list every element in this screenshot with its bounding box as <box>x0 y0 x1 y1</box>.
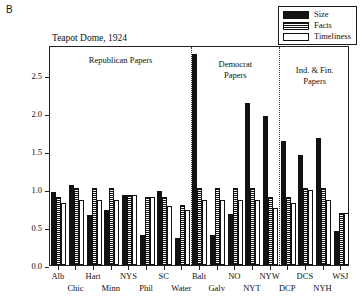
legend-item-facts: Facts <box>283 21 351 30</box>
x-axis-tick <box>164 266 165 270</box>
bar-timeliness-no <box>238 200 243 265</box>
x-axis-label-nys: NYS <box>120 271 137 281</box>
group-annotation-line: Ind. & Fin. <box>279 65 350 76</box>
bar-timeliness-hart <box>97 200 102 265</box>
group-annotation-democrat-papers: DemocratPapers <box>191 59 279 81</box>
bar-group <box>174 47 192 265</box>
x-axis-tick <box>340 266 341 270</box>
bar-timeliness-dcs <box>308 190 313 265</box>
x-axis-tick <box>199 266 200 270</box>
y-axis-tick-label: 0.0 <box>31 261 42 271</box>
bar-group <box>138 47 156 265</box>
y-axis: 0.00.51.01.52.02.5 <box>0 46 49 266</box>
legend-item-size: Size <box>283 10 351 19</box>
legend-swatch-size <box>283 11 309 19</box>
bar-timeliness-nys <box>132 195 137 265</box>
x-axis-tick <box>93 266 94 270</box>
bar-timeliness-sc <box>167 206 172 265</box>
x-axis-label-alb: Alb <box>51 271 64 281</box>
x-axis-label-nyw: NYW <box>259 271 279 281</box>
x-axis-tick <box>305 266 306 270</box>
x-axis-label-wsj: WSJ <box>332 271 348 281</box>
y-axis-tick-label: 2.5 <box>31 71 42 81</box>
bar-group <box>121 47 139 265</box>
bar-timeliness-water <box>185 210 190 265</box>
y-axis-tick: 2.0 <box>31 109 49 119</box>
legend-swatch-facts <box>283 22 309 30</box>
group-annotation-line: Republican Papers <box>50 55 191 66</box>
x-axis-tick <box>217 266 218 270</box>
bar-timeliness-chic <box>79 200 84 265</box>
legend-item-timeliness: Timeliness <box>283 32 351 41</box>
x-axis-label-nyt: NYT <box>243 283 260 293</box>
x-axis-tick <box>111 266 112 270</box>
y-axis-tick: 0.5 <box>31 223 49 233</box>
group-annotation-line: Papers <box>279 76 350 87</box>
y-axis-tick: 1.5 <box>31 147 49 157</box>
y-axis-tick-label: 2.0 <box>31 109 42 119</box>
bars-container: Republican PapersDemocratPapersInd. & Fi… <box>50 47 348 265</box>
bar-group <box>156 47 174 265</box>
y-axis-tick-label: 0.5 <box>31 223 42 233</box>
y-axis-tick-label: 1.5 <box>31 147 42 157</box>
x-axis-label-dcp: DCP <box>279 283 296 293</box>
x-axis-label-nyh: NYH <box>313 283 331 293</box>
group-annotation-independent-financial-papers: Ind. & Fin.Papers <box>279 65 350 87</box>
x-axis-label-water: Water <box>171 283 191 293</box>
legend-label-facts: Facts <box>314 21 332 30</box>
bar-group <box>50 47 68 265</box>
bar-timeliness-balt <box>202 200 207 265</box>
x-axis-label-balt: Balt <box>192 271 206 281</box>
legend-swatch-timeliness <box>283 33 309 41</box>
y-axis-tick: 2.5 <box>31 71 49 81</box>
legend-label-timeliness: Timeliness <box>314 32 351 41</box>
bar-timeliness-nyt <box>255 200 260 265</box>
x-axis-label-chic: Chic <box>67 283 83 293</box>
bar-timeliness-nyw <box>273 208 278 265</box>
y-axis-tick: 1.0 <box>31 185 49 195</box>
bar-timeliness-dcp <box>291 203 296 265</box>
x-axis-label-galv: Galv <box>208 283 225 293</box>
bar-timeliness-minn <box>114 200 119 265</box>
x-axis-tick <box>58 266 59 270</box>
x-axis-label-sc: SC <box>159 271 169 281</box>
chart-legend: Size Facts Timeliness <box>278 6 357 45</box>
x-axis-tick <box>146 266 147 270</box>
bar-timeliness-wsj <box>344 213 349 265</box>
x-axis: AlbChicHartMinnNYSPhilSCWaterBaltGalvNON… <box>49 266 349 305</box>
x-axis-label-dcs: DCS <box>297 271 314 281</box>
x-axis-tick <box>270 266 271 270</box>
x-axis-tick <box>128 266 129 270</box>
bar-timeliness-alb <box>61 203 66 265</box>
chart-title: Teapot Dome, 1924 <box>52 33 127 43</box>
bar-group <box>103 47 121 265</box>
bar-timeliness-nyh <box>326 200 331 265</box>
bar-group <box>68 47 86 265</box>
x-axis-label-phil: Phil <box>139 283 153 293</box>
group-annotation-line: Papers <box>191 70 279 81</box>
bar-timeliness-galv <box>220 200 225 265</box>
y-axis-tick: 0.0 <box>31 261 49 271</box>
x-axis-label-no: NO <box>228 271 240 281</box>
y-axis-tick-label: 1.0 <box>31 185 42 195</box>
x-axis-tick <box>234 266 235 270</box>
bar-group <box>85 47 103 265</box>
legend-label-size: Size <box>314 10 329 19</box>
x-axis-label-minn: Minn <box>102 283 120 293</box>
plot-area: Republican PapersDemocratPapersInd. & Fi… <box>49 46 349 266</box>
x-axis-tick <box>252 266 253 270</box>
x-axis-tick <box>181 266 182 270</box>
x-axis-label-hart: Hart <box>86 271 101 281</box>
bar-timeliness-phil <box>150 197 155 265</box>
x-axis-tick <box>287 266 288 270</box>
panel-label: B <box>6 4 13 15</box>
group-annotation-line: Democrat <box>191 59 279 70</box>
x-axis-tick <box>75 266 76 270</box>
x-axis-tick <box>323 266 324 270</box>
group-annotation-republican-papers: Republican Papers <box>50 55 191 66</box>
